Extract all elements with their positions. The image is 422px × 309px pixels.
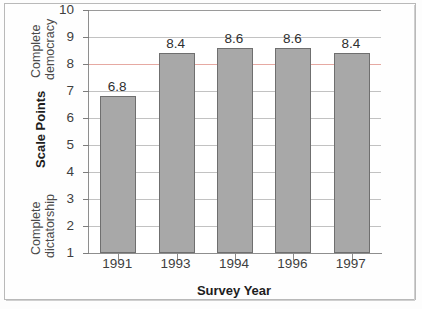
bar-1996 (275, 48, 311, 253)
bar-value-label-1997: 8.4 (321, 36, 381, 51)
y-tick-5 (83, 145, 89, 146)
y-annotation-complete-democracy-line2: democracy (44, 19, 57, 80)
bar-value-label-1993: 8.4 (146, 36, 206, 51)
bar-1991 (100, 96, 136, 253)
y-tick-3 (83, 199, 89, 200)
x-axis-title: Survey Year (88, 283, 380, 298)
y-tick-4 (83, 172, 89, 173)
y-tick-label-5: 5 (40, 138, 74, 152)
gridline-10 (89, 10, 381, 11)
y-tick-label-7: 7 (40, 84, 74, 98)
bar-value-label-1996: 8.6 (262, 31, 322, 46)
bar-1993 (159, 53, 195, 253)
y-tick-label-9: 9 (40, 30, 74, 44)
figure-container: Complete democracy Scale Points Complete… (0, 0, 422, 309)
bar-value-label-1994: 8.6 (204, 31, 264, 46)
y-tick-10 (83, 10, 89, 11)
y-tick-label-8: 8 (40, 57, 74, 71)
y-tick-label-4: 4 (40, 165, 74, 179)
bar-1994 (217, 48, 253, 253)
y-tick-label-10: 10 (40, 3, 74, 17)
bar-value-label-1991: 6.8 (87, 79, 147, 94)
y-tick-8 (83, 64, 89, 65)
y-tick-9 (83, 37, 89, 38)
y-tick-2 (83, 226, 89, 227)
x-tick-label-1997: 1997 (316, 256, 386, 271)
y-tick-label-6: 6 (40, 111, 74, 125)
bar-1997 (334, 53, 370, 253)
y-tick-label-1: 1 (40, 246, 74, 260)
y-tick-6 (83, 118, 89, 119)
y-tick-label-2: 2 (40, 219, 74, 233)
y-tick-label-3: 3 (40, 192, 74, 206)
y-axis-title: Scale Points (34, 91, 47, 168)
